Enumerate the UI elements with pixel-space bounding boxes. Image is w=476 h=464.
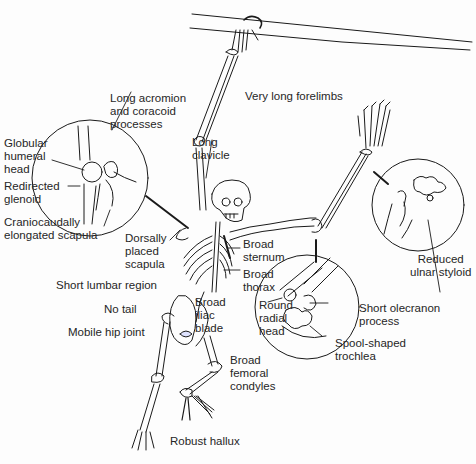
label-redirected-glenoid: Redirected glenoid — [4, 180, 60, 206]
label-dorsally-placed-scapula: Dorsally placed scapula — [125, 232, 167, 271]
label-long-clavicle: Long clavicle — [192, 136, 230, 162]
branch-icon — [190, 14, 472, 50]
label-elongated-scapula: Craniocaudally elongated scapula — [4, 216, 97, 242]
right-arm-bones — [230, 100, 390, 240]
skull-icon — [212, 180, 251, 222]
label-round-radial-head: Round radial head — [259, 299, 293, 338]
label-broad-iliac-blade: Broad iliac blade — [195, 296, 226, 335]
label-reduced-ulnar-styloid: Reduced ulnar styloid — [410, 253, 471, 279]
label-mobile-hip-joint: Mobile hip joint — [68, 326, 145, 339]
label-broad-thorax: Broad thorax — [243, 268, 275, 294]
label-no-tail: No tail — [104, 303, 137, 316]
label-short-lumbar-region: Short lumbar region — [56, 279, 157, 292]
right-leg-bones — [180, 336, 222, 420]
label-very-long-forelimbs: Very long forelimbs — [245, 90, 343, 103]
diagram-canvas: Very long forelimbs Long acromion and co… — [0, 0, 476, 464]
rib-cage — [176, 222, 234, 292]
label-globular-humeral-head: Globular humeral head — [4, 137, 47, 176]
label-long-acromion: Long acromion and coracoid processes — [110, 92, 186, 131]
label-broad-sternum: Broad sternum — [243, 238, 285, 264]
label-robust-hallux: Robust hallux — [170, 435, 240, 448]
label-broad-femoral-condyles: Broad femoral condyles — [230, 354, 275, 393]
left-arm-bones — [194, 30, 258, 210]
label-spool-shaped-trochlea: Spool-shaped trochlea — [335, 337, 406, 363]
wrist-inset — [372, 159, 464, 251]
label-short-olecranon-process: Short olecranon process — [359, 302, 440, 328]
